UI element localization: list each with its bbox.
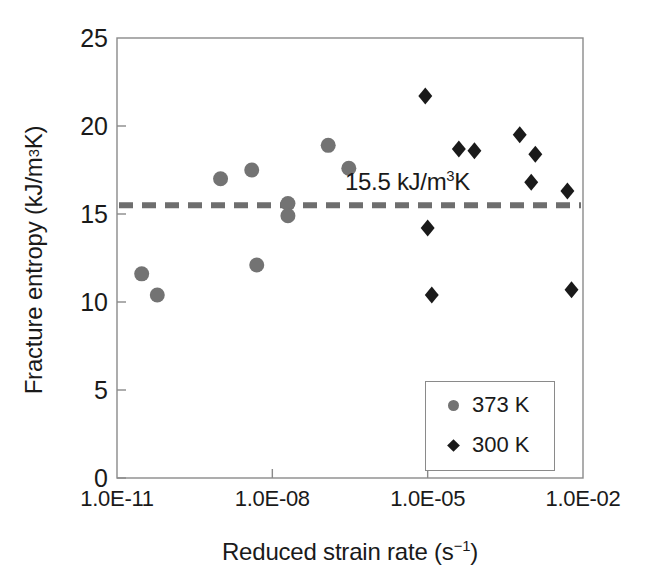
reference-line-annotation: 15.5 kJ/m3K [345,168,470,196]
data-point-diamond [452,140,466,157]
data-point-diamond [421,220,435,237]
diamond-icon [440,441,466,450]
plot-area [0,0,651,586]
legend: 373 K 300 K [425,381,555,471]
fracture-entropy-scatter-chart: Fracture entropy (kJ/m3K) Reduced strain… [0,0,651,586]
data-point-diamond [418,88,432,105]
data-point-circle [244,163,259,178]
annotation-text: 15.5 kJ/m [345,168,446,195]
legend-entry-373k: 373 K [440,392,530,418]
data-point-diamond [524,174,538,191]
data-point-diamond [467,142,481,159]
circle-icon [440,400,466,411]
data-point-circle [249,258,264,273]
data-point-diamond [425,286,439,303]
data-point-diamond [528,146,542,163]
data-point-diamond [560,183,574,200]
series-373-k [134,138,356,303]
data-point-circle [280,208,295,223]
annotation-suffix: K [454,168,470,195]
data-point-circle [213,171,228,186]
data-point-circle [134,266,149,281]
legend-label-300k: 300 K [472,432,530,458]
legend-entry-300k: 300 K [440,432,530,458]
data-point-diamond [565,281,579,298]
data-point-circle [321,138,336,153]
data-point-diamond [513,126,527,143]
legend-label-373k: 373 K [472,392,530,418]
data-point-circle [150,287,165,302]
